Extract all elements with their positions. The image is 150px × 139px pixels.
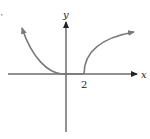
y-axis-label: y: [62, 9, 69, 20]
scan-artifact: [1, 14, 3, 16]
x-tick-label-2: 2: [81, 79, 87, 90]
left-branch-curve: [22, 28, 62, 74]
x-axis-label: x: [141, 69, 147, 80]
function-graph: y x 2: [0, 0, 150, 139]
right-branch-curve: [84, 32, 134, 74]
graph-canvas: y x 2: [0, 0, 150, 139]
